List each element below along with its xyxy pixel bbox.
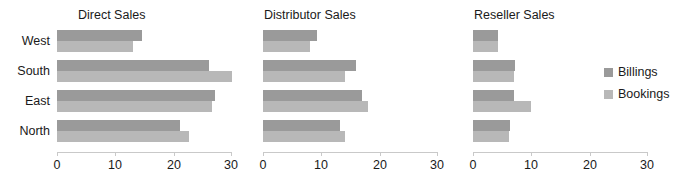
x-tick-label-10: 10 <box>524 158 538 172</box>
x-tick-label-20: 20 <box>583 158 597 172</box>
x-tick-10 <box>531 152 532 156</box>
legend-swatch-billings-icon <box>604 68 613 77</box>
bar-south-bookings <box>473 71 514 82</box>
panel-reseller-sales: Reseller Sales <box>0 0 678 196</box>
bar-east-billings <box>473 90 514 101</box>
legend-swatch-bookings-icon <box>604 90 613 99</box>
bar-east-bookings <box>473 101 531 112</box>
legend-label-billings: Billings <box>618 63 658 81</box>
bar-south-billings <box>473 60 515 71</box>
bar-west-billings <box>473 30 498 41</box>
bar-group-west <box>473 30 648 56</box>
bar-north-bookings <box>473 131 509 142</box>
x-tick-label-30: 30 <box>640 158 654 172</box>
multi-panel-bar-chart: West South East North Direct Sales <box>0 0 678 196</box>
x-axis-reseller-sales: 0 10 20 30 <box>473 152 648 176</box>
legend-label-bookings: Bookings <box>618 85 669 103</box>
axis-line <box>473 152 648 153</box>
bar-west-bookings <box>473 41 498 52</box>
x-tick-20 <box>590 152 591 156</box>
x-tick-0 <box>473 152 474 156</box>
bar-north-billings <box>473 120 510 131</box>
bar-group-north <box>473 120 648 146</box>
panel-title-reseller-sales: Reseller Sales <box>474 8 555 22</box>
x-tick-label-0: 0 <box>470 158 477 172</box>
x-tick-30 <box>647 152 648 156</box>
